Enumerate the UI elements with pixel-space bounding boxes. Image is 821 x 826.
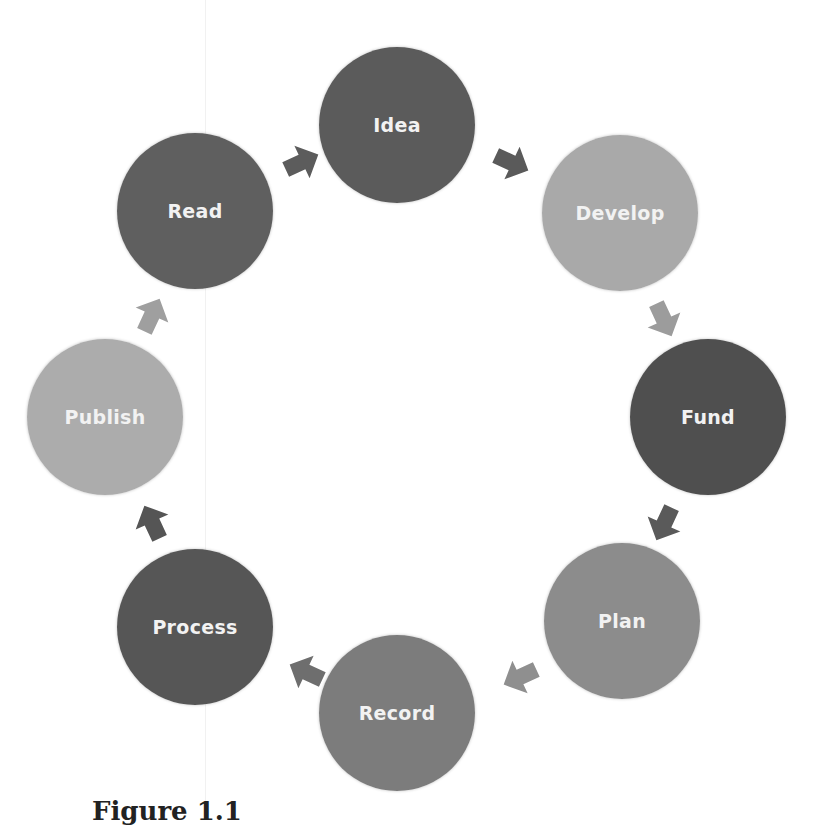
node-develop: Develop	[542, 135, 698, 291]
arrow-idea-to-develop-icon	[483, 134, 541, 192]
node-idea: Idea	[319, 47, 475, 203]
arrow-process-to-publish-icon	[123, 493, 181, 551]
node-publish: Publish	[27, 339, 183, 495]
node-label: Fund	[681, 406, 735, 428]
arrow-plan-to-record-icon	[491, 648, 549, 706]
node-plan: Plan	[544, 543, 700, 699]
node-label: Process	[152, 616, 237, 638]
node-record: Record	[319, 635, 475, 791]
arrow-fund-to-plan-icon	[635, 495, 693, 553]
node-label: Read	[167, 200, 222, 222]
node-label: Record	[359, 702, 436, 724]
node-process: Process	[117, 549, 273, 705]
node-read: Read	[117, 133, 273, 289]
node-label: Publish	[64, 406, 145, 428]
node-label: Idea	[373, 114, 421, 136]
arrow-develop-to-fund-icon	[635, 291, 693, 349]
node-label: Plan	[598, 610, 646, 632]
arrow-publish-to-read-icon	[123, 286, 181, 344]
node-fund: Fund	[630, 339, 786, 495]
figure-caption: Figure 1.1	[92, 796, 242, 826]
node-label: Develop	[575, 202, 664, 224]
